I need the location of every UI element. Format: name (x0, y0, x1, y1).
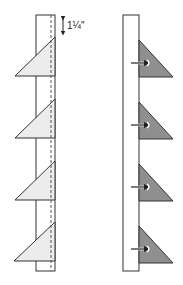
dark-triangle-4 (139, 226, 173, 263)
light-triangle-2 (15, 99, 55, 138)
dark-triangle-2 (139, 102, 173, 139)
right-strip (123, 15, 139, 271)
dark-triangle-3 (139, 164, 173, 201)
light-triangle-4 (14, 222, 55, 261)
dark-triangle-1 (139, 40, 173, 77)
measurement: 1¼" (63, 18, 85, 33)
light-triangle-1 (15, 37, 55, 76)
measurement-label: 1¼" (67, 20, 85, 31)
right-panel (123, 15, 173, 271)
left-panel: 1¼" (14, 15, 85, 271)
quilt-diagram: 1¼" (0, 0, 183, 285)
dark-triangles (139, 40, 173, 263)
light-triangle-3 (15, 161, 55, 200)
